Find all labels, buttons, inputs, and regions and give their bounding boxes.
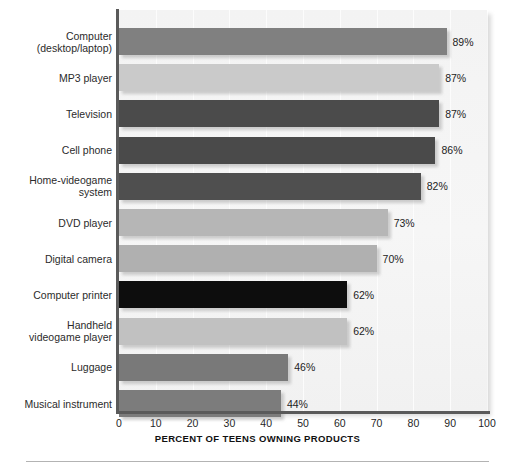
bar-value-label: 82% [427, 180, 448, 192]
category-label: Musical instrument [0, 398, 112, 410]
bar-value-label: 87% [445, 108, 466, 120]
bar-70%[interactable] [119, 245, 377, 272]
x-tick-60: 60 [325, 417, 355, 429]
category-label: Home-videogamesystem [0, 174, 112, 198]
bar-value-label: 46% [294, 361, 315, 373]
category-label-line: Handheld [0, 319, 112, 331]
bar-62%[interactable] [119, 281, 347, 308]
category-label: DVD player [0, 217, 112, 229]
bar-value-label: 70% [383, 253, 404, 265]
bar-value-label: 73% [394, 217, 415, 229]
category-label: MP3 player [0, 72, 112, 84]
category-label-line: Home-videogame [0, 174, 112, 186]
bar-89%[interactable] [119, 28, 447, 55]
category-label: Television [0, 108, 112, 120]
x-tick-70: 70 [362, 417, 392, 429]
bar-62%[interactable] [119, 318, 347, 345]
x-tick-80: 80 [398, 417, 428, 429]
category-label-line: Luggage [0, 361, 112, 373]
category-label-line: Digital camera [0, 253, 112, 265]
category-label: Luggage [0, 361, 112, 373]
category-label-line: Television [0, 108, 112, 120]
category-label: Handheldvideogame player [0, 319, 112, 343]
bar-87%[interactable] [119, 100, 439, 127]
category-label-line: system [0, 186, 112, 198]
bottom-divider [26, 461, 489, 462]
gridline-90 [450, 10, 451, 412]
bar-82%[interactable] [119, 173, 421, 200]
bar-value-label: 86% [441, 144, 462, 156]
category-label-line: DVD player [0, 217, 112, 229]
bar-73%[interactable] [119, 209, 388, 236]
x-tick-90: 90 [435, 417, 465, 429]
category-label-line: Cell phone [0, 144, 112, 156]
bar-value-label: 87% [445, 72, 466, 84]
bar-46%[interactable] [119, 354, 288, 381]
category-label-line: (desktop/laptop) [0, 42, 112, 54]
x-axis-line [116, 411, 490, 414]
bar-value-label: 62% [353, 325, 374, 337]
category-label: Cell phone [0, 144, 112, 156]
category-label-line: Computer printer [0, 289, 112, 301]
category-label-line: MP3 player [0, 72, 112, 84]
category-label-line: Computer [0, 30, 112, 42]
y-axis-line [116, 9, 119, 414]
bar-value-label: 89% [453, 36, 474, 48]
gridline-100 [487, 10, 488, 412]
bar-value-label: 62% [353, 289, 374, 301]
bar-86%[interactable] [119, 137, 435, 164]
bar-chart-figure: Computer(desktop/laptop)89%MP3 player87%… [0, 0, 515, 469]
bar-87%[interactable] [119, 64, 439, 91]
category-label: Computer printer [0, 289, 112, 301]
bar-value-label: 44% [287, 398, 308, 410]
category-label-line: videogame player [0, 331, 112, 343]
category-label: Computer(desktop/laptop) [0, 30, 112, 54]
category-label-line: Musical instrument [0, 398, 112, 410]
category-label: Digital camera [0, 253, 112, 265]
x-tick-50: 50 [288, 417, 318, 429]
x-axis-title: PERCENT OF TEENS OWNING PRODUCTS [0, 433, 515, 444]
x-tick-100: 100 [472, 417, 502, 429]
